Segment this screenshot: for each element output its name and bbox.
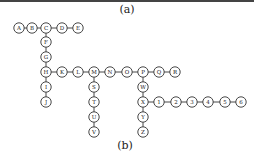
svg-text:W: W: [140, 84, 146, 90]
node-M: M: [89, 67, 99, 77]
svg-text:C: C: [44, 25, 48, 31]
svg-text:4: 4: [206, 99, 210, 105]
node-P: P: [138, 67, 148, 77]
tree-diagram: ABCDEFGHKLMNOPQRIJSTUVWXYZ123456: [0, 0, 254, 161]
node-K: K: [57, 67, 67, 77]
caption-b: (b): [117, 139, 133, 152]
svg-text:X: X: [141, 99, 145, 105]
svg-text:N: N: [108, 69, 113, 75]
svg-text:J: J: [44, 99, 47, 106]
node-F: F: [41, 37, 51, 47]
node-G: G: [41, 52, 51, 62]
node-U: U: [89, 112, 99, 122]
svg-text:O: O: [125, 69, 130, 75]
node-3: 3: [187, 97, 197, 107]
svg-text:Z: Z: [141, 129, 145, 135]
svg-text:D: D: [60, 25, 65, 31]
svg-text:P: P: [141, 69, 145, 75]
node-1: 1: [154, 97, 164, 107]
node-V: V: [89, 127, 99, 137]
node-C: C: [41, 23, 51, 33]
svg-text:Q: Q: [157, 69, 162, 75]
svg-text:L: L: [76, 69, 80, 75]
node-L: L: [73, 67, 83, 77]
node-Y: Y: [138, 112, 148, 122]
svg-text:U: U: [92, 114, 97, 120]
svg-text:Y: Y: [140, 114, 145, 120]
svg-text:H: H: [44, 69, 49, 75]
node-I: I: [41, 82, 51, 92]
svg-text:S: S: [92, 84, 96, 90]
node-T: T: [89, 97, 99, 107]
svg-text:6: 6: [239, 99, 243, 105]
svg-text:T: T: [92, 99, 96, 105]
node-2: 2: [171, 97, 181, 107]
svg-text:2: 2: [174, 99, 178, 105]
node-A: A: [14, 23, 24, 33]
node-X: X: [138, 97, 148, 107]
svg-text:1: 1: [157, 99, 161, 105]
node-5: 5: [220, 97, 230, 107]
node-W: W: [138, 82, 148, 92]
svg-text:E: E: [76, 25, 80, 31]
node-E: E: [73, 23, 83, 33]
svg-text:M: M: [91, 69, 97, 75]
node-B: B: [27, 23, 37, 33]
svg-text:5: 5: [223, 99, 227, 105]
node-J: J: [41, 97, 51, 107]
node-4: 4: [203, 97, 213, 107]
node-S: S: [89, 82, 99, 92]
node-D: D: [57, 23, 67, 33]
node-R: R: [170, 67, 180, 77]
svg-text:B: B: [30, 25, 34, 31]
node-H: H: [41, 67, 51, 77]
svg-text:3: 3: [190, 99, 194, 105]
svg-text:G: G: [44, 54, 48, 60]
svg-text:I: I: [45, 84, 47, 90]
svg-text:F: F: [44, 39, 48, 45]
node-Z: Z: [138, 127, 148, 137]
node-N: N: [105, 67, 115, 77]
node-6: 6: [236, 97, 246, 107]
node-Q: Q: [154, 67, 164, 77]
node-O: O: [122, 67, 132, 77]
